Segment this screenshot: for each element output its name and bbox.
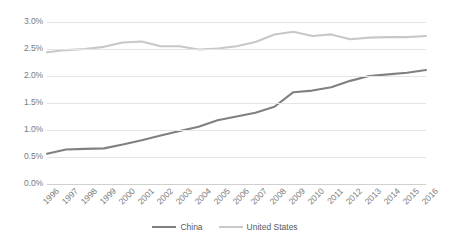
y-axis-tick-label: 1.0% — [3, 124, 43, 134]
x-axis: 1996199719981999200020012002200320042005… — [47, 186, 426, 226]
y-axis-tick-label: 2.0% — [3, 70, 43, 80]
y-axis: 0.0%0.5%1.0%1.5%2.0%2.5%3.0% — [0, 22, 43, 184]
legend-item-united-states[interactable]: United States — [219, 222, 298, 232]
chart-legend: ChinaUnited States — [0, 222, 450, 232]
legend-label: China — [180, 222, 202, 232]
y-axis-tick-label: 1.5% — [3, 97, 43, 107]
gridline — [47, 130, 426, 131]
gridline — [47, 22, 426, 23]
y-axis-tick-label: 0.5% — [3, 151, 43, 161]
y-axis-tick-label: 2.5% — [3, 43, 43, 53]
legend-line-swatch — [219, 226, 243, 228]
gridline — [47, 49, 426, 50]
gridline — [47, 157, 426, 158]
legend-item-china[interactable]: China — [152, 222, 202, 232]
legend-label: United States — [247, 222, 298, 232]
plot-area — [47, 22, 426, 184]
axis-baseline — [47, 184, 426, 185]
legend-line-swatch — [152, 226, 176, 228]
y-axis-tick-label: 3.0% — [3, 16, 43, 26]
gridline — [47, 103, 426, 104]
y-axis-tick-label: 0.0% — [3, 178, 43, 188]
series-line-china — [47, 70, 426, 154]
gridline — [47, 76, 426, 77]
line-chart: 0.0%0.5%1.0%1.5%2.0%2.5%3.0% 19961997199… — [0, 0, 450, 251]
